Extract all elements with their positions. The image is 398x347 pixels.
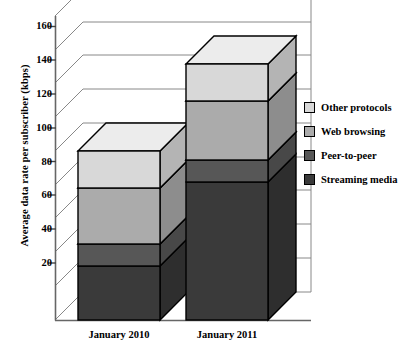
legend-swatch-other-protocols — [304, 102, 315, 113]
legend-swatch-streaming-media — [304, 174, 315, 185]
legend-item-peer-to-peer[interactable]: Peer-to-peer — [304, 143, 398, 167]
legend-label-peer-to-peer: Peer-to-peer — [321, 150, 377, 161]
legend-label-other-protocols: Other protocols — [321, 102, 391, 113]
legend-item-other-protocols[interactable]: Other protocols — [304, 95, 398, 119]
legend-label-web-browsing: Web browsing — [321, 126, 385, 137]
legend-swatch-web-browsing — [304, 126, 315, 137]
legend-item-web-browsing[interactable]: Web browsing — [304, 119, 398, 143]
x-label-january-2011: January 2011 — [172, 329, 282, 340]
legend-label-streaming-media: Streaming media — [321, 174, 398, 185]
legend-swatch-peer-to-peer — [304, 150, 315, 161]
x-label-january-2010: January 2010 — [64, 329, 174, 340]
chart-legend: Other protocols Web browsing Peer-to-pee… — [304, 95, 398, 191]
legend-item-streaming-media[interactable]: Streaming media — [304, 167, 398, 191]
